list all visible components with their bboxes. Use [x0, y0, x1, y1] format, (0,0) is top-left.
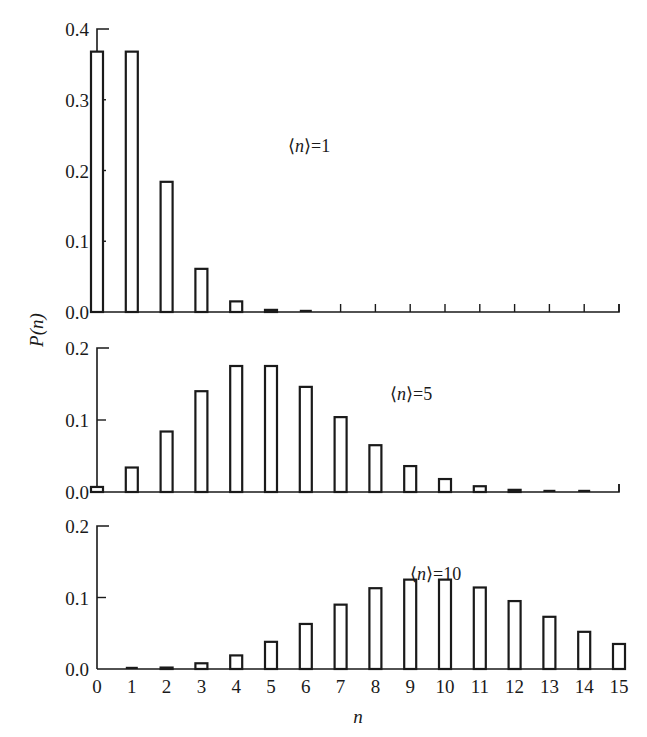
chart-panels: 0.00.10.20.30.4⟨n⟩=10.00.10.2⟨n⟩=50.00.1… — [65, 19, 628, 697]
bar-n-9 — [404, 466, 416, 492]
panel-mean-1: 0.00.10.20.30.4⟨n⟩=1 — [65, 19, 619, 323]
mean-annotation: ⟨n⟩=5 — [390, 384, 432, 404]
x-tick-label: 1 — [127, 676, 137, 697]
bar-n-4 — [230, 301, 242, 312]
bar-n-2 — [161, 432, 173, 492]
y-tick-label: 0.3 — [65, 90, 89, 111]
bar-n-0 — [91, 52, 103, 312]
x-tick-label: 11 — [471, 676, 489, 697]
bar-n-6 — [300, 310, 312, 312]
y-tick-label: 0.0 — [65, 659, 89, 680]
bar-n-5 — [265, 366, 277, 492]
bar-n-5 — [265, 310, 277, 312]
panel-mean-10: 0.00.10.2⟨n⟩=100123456789101112131415 — [65, 516, 628, 697]
y-axis-title: P(n) — [26, 313, 48, 348]
bar-n-6 — [300, 387, 312, 492]
bar-n-3 — [195, 663, 207, 669]
y-tick-label: 0.2 — [65, 516, 89, 537]
bar-n-3 — [195, 391, 207, 492]
bar-n-12 — [509, 490, 521, 492]
x-tick-label: 10 — [436, 676, 455, 697]
x-tick-label: 15 — [610, 676, 629, 697]
bar-n-14 — [578, 632, 590, 669]
bar-n-3 — [195, 269, 207, 312]
bar-n-2 — [161, 182, 173, 312]
bar-n-11 — [474, 587, 486, 669]
x-tick-label: 5 — [266, 676, 276, 697]
panel-mean-5: 0.00.10.2⟨n⟩=5 — [65, 338, 619, 503]
x-tick-label: 4 — [231, 676, 241, 697]
x-tick-label: 9 — [405, 676, 415, 697]
x-tick-label: 6 — [301, 676, 311, 697]
x-tick-label: 12 — [505, 676, 524, 697]
bar-n-13 — [543, 617, 555, 669]
bar-n-8 — [369, 445, 381, 492]
bar-n-4 — [230, 655, 242, 669]
bar-n-6 — [300, 624, 312, 669]
y-tick-label: 0.2 — [65, 338, 89, 359]
bar-n-5 — [265, 642, 277, 669]
bar-n-7 — [335, 417, 347, 492]
poisson-distribution-chart: 0.00.10.20.30.4⟨n⟩=10.00.10.2⟨n⟩=50.00.1… — [0, 0, 647, 737]
bar-n-10 — [439, 580, 451, 669]
bar-n-9 — [404, 580, 416, 669]
bar-n-12 — [509, 601, 521, 669]
x-tick-label: 8 — [371, 676, 381, 697]
bar-n-0 — [91, 487, 103, 492]
y-tick-label: 0.2 — [65, 161, 89, 182]
y-tick-label: 0.1 — [65, 588, 89, 609]
x-axis-line — [97, 304, 619, 312]
x-tick-label: 3 — [197, 676, 207, 697]
y-tick-label: 0.1 — [65, 410, 89, 431]
bar-n-7 — [335, 605, 347, 669]
bar-n-11 — [474, 486, 486, 492]
bar-n-1 — [126, 667, 138, 669]
bar-n-1 — [126, 468, 138, 492]
x-axis-title: n — [353, 706, 363, 727]
x-tick-label: 2 — [162, 676, 172, 697]
x-tick-label: 7 — [336, 676, 346, 697]
x-axis-line — [97, 484, 619, 492]
y-tick-label: 0.0 — [65, 482, 89, 503]
x-tick-label: 14 — [575, 676, 595, 697]
bar-n-13 — [543, 490, 555, 492]
y-tick-label: 0.1 — [65, 231, 89, 252]
y-tick-label: 0.0 — [65, 302, 89, 323]
bar-n-4 — [230, 366, 242, 492]
x-tick-label: 0 — [92, 676, 102, 697]
bar-n-10 — [439, 479, 451, 492]
mean-annotation: ⟨n⟩=10 — [410, 564, 461, 584]
y-tick-label: 0.4 — [65, 19, 89, 40]
bar-n-2 — [161, 668, 173, 669]
bar-n-14 — [578, 490, 590, 492]
mean-annotation: ⟨n⟩=1 — [288, 136, 330, 156]
x-axis-line — [97, 661, 619, 669]
bar-n-1 — [126, 52, 138, 312]
x-tick-label: 13 — [540, 676, 559, 697]
bar-n-8 — [369, 588, 381, 669]
bar-n-15 — [613, 644, 625, 669]
